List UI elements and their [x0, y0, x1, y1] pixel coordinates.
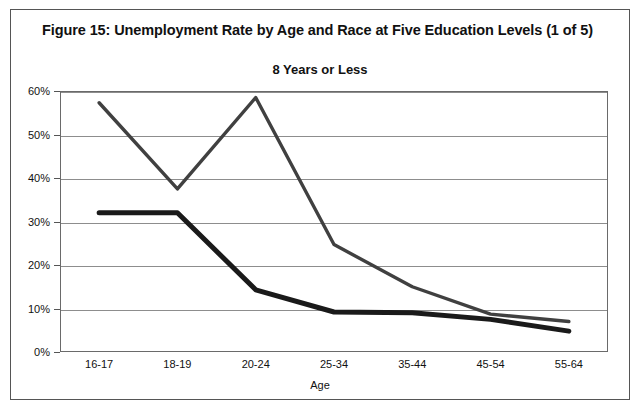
y-axis-tick-label: 0%: [0, 346, 50, 358]
x-axis-tick-label: 55-64: [555, 358, 583, 370]
chart-lines: [60, 91, 608, 352]
x-axis-tick-label: 45-54: [476, 358, 504, 370]
x-axis-tick-label: 20-24: [242, 358, 270, 370]
y-axis-tick-mark: [54, 135, 60, 136]
x-axis-tick-label: 18-19: [163, 358, 191, 370]
y-axis-tick-mark: [54, 309, 60, 310]
figure-title: Figure 15: Unemployment Rate by Age and …: [42, 22, 593, 38]
y-axis-tick-label: 40%: [0, 172, 50, 184]
series-line-black: [99, 98, 569, 322]
y-axis-tick-mark: [54, 178, 60, 179]
x-axis-label: Age: [0, 379, 640, 391]
y-axis-tick-mark: [54, 222, 60, 223]
y-axis-tick-label: 50%: [0, 129, 50, 141]
y-axis-tick-label: 60%: [0, 85, 50, 97]
chart-subtitle: 8 Years or Less: [0, 62, 640, 77]
y-axis-tick-mark: [54, 352, 60, 353]
y-axis-tick-mark: [54, 91, 60, 92]
y-axis-tick-label: 20%: [0, 259, 50, 271]
y-axis-tick-mark: [54, 265, 60, 266]
y-axis-tick-label: 10%: [0, 303, 50, 315]
x-axis-tick-label: 16-17: [85, 358, 113, 370]
x-axis-tick-label: 35-44: [398, 358, 426, 370]
y-axis-tick-label: 30%: [0, 216, 50, 228]
x-axis-tick-label: 25-34: [320, 358, 348, 370]
